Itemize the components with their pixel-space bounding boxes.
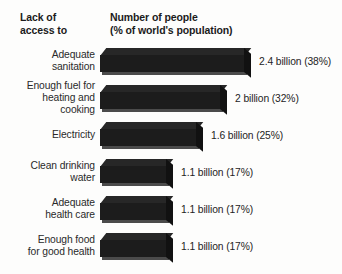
bar-face-side (244, 48, 251, 78)
category-label: Enough food for good health (0, 234, 95, 258)
value-label: 1.1 billion (17%) (181, 167, 253, 178)
table-row: Adequate health care1.1 billion (17%) (0, 192, 342, 226)
bar-face-front (100, 240, 167, 257)
bar-chart: Lack of access to Number of people (% of… (0, 0, 342, 274)
table-row: Adequate sanitation2.4 billion (38%) (0, 44, 342, 78)
bar (100, 196, 167, 224)
value-label: 1.6 billion (25%) (211, 130, 283, 141)
value-column-header: Number of people (% of world's populatio… (110, 11, 232, 36)
bar-face-shadow (102, 72, 247, 75)
bar (100, 122, 197, 150)
category-label: Enough fuel for heating and cooking (0, 80, 95, 117)
bar-face-shadow (102, 109, 223, 112)
bar (100, 159, 167, 187)
bar-face-front (100, 92, 221, 109)
bar-face-front (100, 55, 245, 72)
table-row: Enough fuel for heating and cooking2 bil… (0, 81, 342, 115)
bar (100, 85, 221, 113)
category-label: Adequate sanitation (0, 49, 95, 73)
bar-face-front (100, 203, 167, 220)
category-label: Adequate health care (0, 197, 95, 221)
value-label: 1.1 billion (17%) (181, 204, 253, 215)
bar-face-side (166, 233, 173, 263)
category-label: Electricity (0, 129, 95, 141)
bar-face-side (220, 85, 227, 115)
category-column-header: Lack of access to (20, 11, 67, 36)
value-label: 1.1 billion (17%) (181, 241, 253, 252)
table-row: Clean drinking water1.1 billion (17%) (0, 155, 342, 189)
table-row: Enough food for good health1.1 billion (… (0, 229, 342, 263)
bar-face-side (196, 122, 203, 152)
bar-face-front (100, 166, 167, 183)
value-label: 2 billion (32%) (235, 93, 299, 104)
bar-face-shadow (102, 146, 199, 149)
bar (100, 48, 245, 76)
table-row: Electricity1.6 billion (25%) (0, 118, 342, 152)
bar-face-side (166, 196, 173, 226)
bar (100, 233, 167, 261)
value-label: 2.4 billion (38%) (259, 56, 331, 67)
bar-face-side (166, 159, 173, 189)
bar-face-shadow (102, 257, 169, 260)
bar-face-front (100, 129, 197, 146)
bar-face-shadow (102, 183, 169, 186)
bar-face-shadow (102, 220, 169, 223)
category-label: Clean drinking water (0, 160, 95, 184)
